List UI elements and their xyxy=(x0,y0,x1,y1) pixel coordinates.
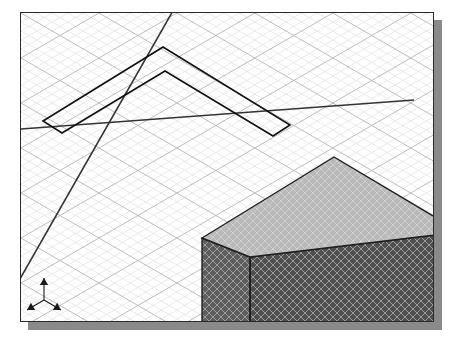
viewport-canvas[interactable] xyxy=(21,13,433,321)
screenshot-root: Isometric CAD Viewport SE Isometric Shad… xyxy=(0,0,456,343)
model-viewport[interactable] xyxy=(20,12,434,322)
